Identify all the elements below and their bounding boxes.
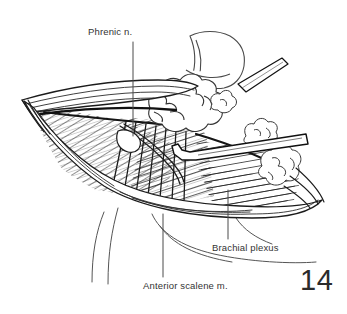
figure-number: 14: [300, 266, 333, 295]
anatomical-line-drawing: [0, 0, 347, 314]
fat-lobule-upper-right: [211, 90, 237, 112]
retractor-blade-upper: [238, 58, 288, 92]
label-brachial-plexus: Brachial plexus: [212, 243, 279, 253]
neck-contour: [92, 208, 316, 284]
label-anterior-scalene-muscle: Anterior scalene m.: [143, 281, 228, 291]
label-phrenic-nerve: Phrenic n.: [88, 27, 132, 37]
figure-illustration: Phrenic n. Brachial plexus Anterior scal…: [0, 0, 347, 314]
